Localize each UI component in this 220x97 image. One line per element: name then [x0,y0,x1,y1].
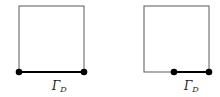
right-node-bottom-middle-dot [171,69,178,76]
left-panel-group [16,6,88,75]
right-gamma-d-label: ΓD [184,80,199,94]
left-node-bottom-right-dot [81,69,88,76]
left-gamma-subscript: D [60,85,66,94]
right-panel-group [144,6,212,75]
right-node-bottom-right-dot [206,69,213,76]
right-square-outline [144,6,209,72]
dirichlet-boundary-figure: ΓD ΓD [0,0,220,97]
left-gamma-d-label: ΓD [52,80,67,94]
left-node-bottom-left-dot [16,69,23,76]
left-square-outline [19,6,84,72]
right-gamma-subscript: D [192,85,198,94]
